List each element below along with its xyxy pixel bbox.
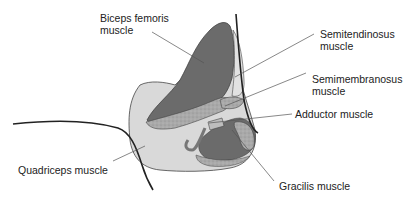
label-semitendinosus: Semitendinosus muscle <box>320 28 395 52</box>
label-line: muscle <box>100 24 169 36</box>
label-gracilis: Gracilis muscle <box>279 180 350 192</box>
label-line: Semitendinosus <box>320 28 395 40</box>
label-quadriceps: Quadriceps muscle <box>18 164 108 176</box>
label-line: Gracilis muscle <box>279 180 350 192</box>
label-semimembranosus: Semimembranosus muscle <box>312 73 402 97</box>
label-line: Biceps femoris <box>100 12 169 24</box>
label-biceps-femoris: Biceps femoris muscle <box>100 12 169 36</box>
label-line: Quadriceps muscle <box>18 164 108 176</box>
label-line: muscle <box>320 40 395 52</box>
label-line: Adductor muscle <box>295 108 373 120</box>
label-line: Semimembranosus <box>312 73 402 85</box>
label-adductor: Adductor muscle <box>295 108 373 120</box>
label-line: muscle <box>312 85 402 97</box>
leader-semitendinosus <box>235 34 314 77</box>
